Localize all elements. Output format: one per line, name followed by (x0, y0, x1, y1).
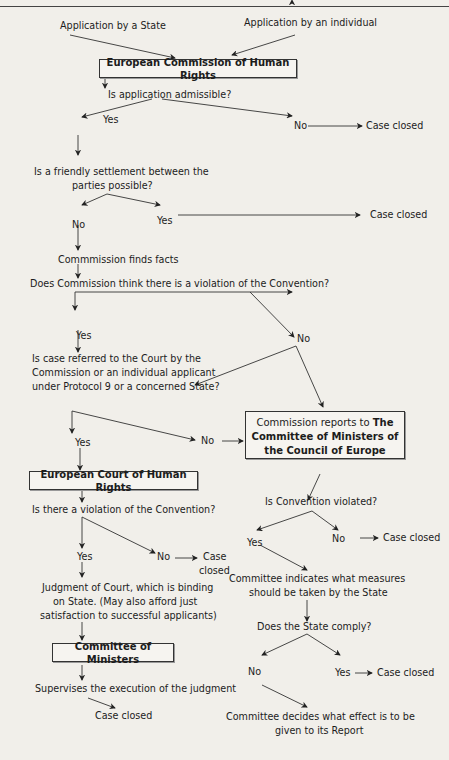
convention-no-case-closed: Case closed (383, 532, 440, 545)
reports-text: Commission reports to (256, 417, 372, 428)
judgment-1: Judgment of Court, which is binding (42, 582, 213, 595)
referred-question-1: Is case referred to the Court by the (32, 353, 201, 366)
referred-question-2: Commission or an individual applicant (32, 367, 215, 380)
decides-1: Committee decides what effect is to be (226, 711, 415, 724)
court-no-case-closed-1: Case (203, 551, 226, 564)
comply-question: Does the State comply? (257, 621, 371, 634)
referred-yes: Yes (75, 437, 91, 450)
admissible-no: No (294, 120, 307, 133)
measures-2: should be taken by the State (249, 587, 388, 600)
commission-box: European Commission of Human Rights (99, 59, 297, 78)
court-no-case-closed-2: closed (199, 565, 230, 578)
commission-finds-facts: Commmission finds facts (58, 254, 178, 267)
supervises-case-closed: Case closed (95, 710, 152, 723)
convention-violated-question: Is Convention violated? (265, 496, 377, 509)
reports-line-3: the Council of Europe (246, 444, 404, 458)
friendly-settlement-question-1: Is a friendly settlement between the (34, 166, 209, 179)
court-no: No (157, 551, 170, 564)
supervises-execution: Supervises the execution of the judgment (35, 683, 236, 696)
violation-no: No (297, 333, 310, 346)
comply-yes: Yes (335, 667, 351, 680)
reports-line-2: Committee of Ministers of (246, 430, 404, 444)
judgment-2: on State. (May also afford just (53, 596, 197, 609)
violation-yes: Yes (76, 330, 92, 343)
friendly-no: No (72, 219, 85, 232)
admissible-no-case-closed: Case closed (366, 120, 423, 133)
friendly-yes-case-closed: Case closed (370, 209, 427, 222)
judgment-3: satisfaction to successful applicants) (40, 610, 217, 623)
reports-the: The (373, 417, 394, 428)
application-by-individual: Application by an individual (244, 17, 377, 30)
measures-1: Committee indicates what measures (229, 573, 405, 586)
violation-question: Does Commission think there is a violati… (30, 278, 329, 291)
decides-2: given to its Report (275, 725, 363, 738)
comply-yes-case-closed: Case closed (377, 667, 434, 680)
convention-yes: Yes (247, 537, 263, 550)
referred-no: No (201, 435, 214, 448)
court-violation-question: Is there a violation of the Convention? (32, 504, 215, 517)
friendly-yes: Yes (157, 215, 173, 228)
admissible-yes: Yes (103, 114, 119, 127)
committee-of-ministers-box: Committee of Ministers (52, 643, 174, 662)
admissible-question: Is application admissible? (108, 89, 231, 102)
european-court-box: European Court of Human Rights (29, 471, 198, 490)
friendly-settlement-question-2: parties possible? (72, 180, 153, 193)
committee-of-ministers-council-box: Commission reports to The Committee of M… (245, 411, 405, 459)
convention-no: No (332, 533, 345, 546)
application-by-state: Application by a State (60, 20, 166, 33)
comply-no: No (248, 666, 261, 679)
court-yes: Yes (77, 551, 93, 564)
referred-question-3: under Protocol 9 or a concerned State? (32, 381, 220, 394)
